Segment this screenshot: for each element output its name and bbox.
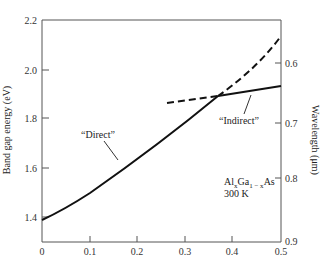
svg-text:0.9: 0.9 [285,236,298,247]
svg-text:0.2: 0.2 [131,246,144,257]
indirect-pointer [244,95,251,114]
annotations: “Direct” “Indirect” AlxGa1 − xAs 300 K [81,95,275,199]
band-gap-chart: 0 0.1 0.2 0.3 0.4 0.5 1.4 1.6 1.8 2.0 2.… [0,0,322,260]
direct-label: “Direct” [81,129,115,140]
svg-text:1.6: 1.6 [25,163,38,174]
svg-text:2.2: 2.2 [25,15,38,26]
svg-text:0.3: 0.3 [179,246,192,257]
svg-text:1.4: 1.4 [25,212,38,223]
svg-text:0.5: 0.5 [275,246,288,257]
svg-text:0.8: 0.8 [285,173,298,184]
direct-solid-curve [42,96,218,220]
direct-pointer [104,141,118,160]
y-axis-tick-labels: 1.4 1.6 1.8 2.0 2.2 [25,15,38,223]
svg-text:0: 0 [40,246,45,257]
y2-axis-tick-labels: 0.6 0.7 0.8 0.9 [285,58,298,247]
svg-text:0.1: 0.1 [84,246,97,257]
svg-text:0.4: 0.4 [226,246,239,257]
indirect-label: “Indirect” [219,115,259,126]
y2-axis-ticks [275,63,281,178]
svg-text:0.6: 0.6 [285,58,298,69]
temperature-label: 300 K [224,188,250,199]
svg-text:0.7: 0.7 [285,118,298,129]
svg-text:1.8: 1.8 [25,113,38,124]
x-axis-ticks [90,236,232,242]
y2-axis-label: Wavelength (μm) [309,105,321,175]
indirect-solid-curve [218,86,281,96]
svg-text:2.0: 2.0 [25,65,38,76]
plot-frame [42,20,281,242]
y-axis-ticks [42,70,49,217]
y-axis-label: Band gap energy (eV) [1,86,13,174]
x-axis-tick-labels: 0 0.1 0.2 0.3 0.4 0.5 [40,246,288,257]
